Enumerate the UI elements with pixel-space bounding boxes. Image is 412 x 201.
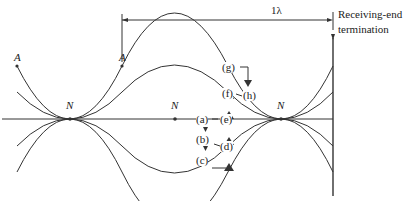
wave-d	[17, 119, 333, 173]
phase-g: (g)	[222, 62, 235, 73]
termination-label-2: termination	[338, 24, 389, 35]
wave-c	[17, 119, 333, 201]
arrow-down-icon	[203, 146, 208, 151]
phase-d: (d)	[220, 141, 233, 152]
arrow-down-icon	[203, 127, 208, 132]
phase-c: (c)	[196, 155, 208, 166]
phase-e: (e)	[220, 114, 232, 125]
antinode-label: A	[14, 52, 21, 63]
node-label: N	[171, 100, 178, 111]
arrow-down-icon	[244, 80, 252, 87]
termination-label-1: Receiving-end	[338, 9, 402, 20]
node-label: N	[277, 100, 284, 111]
phase-f: (f)	[222, 88, 233, 99]
phase-a: (a)	[196, 114, 208, 125]
dimension-label: 1λ	[271, 5, 282, 16]
antinode-label: A	[119, 52, 126, 63]
phase-b: (b)	[196, 134, 209, 145]
phase-h: (h)	[243, 90, 256, 101]
node-label: N	[66, 100, 73, 111]
